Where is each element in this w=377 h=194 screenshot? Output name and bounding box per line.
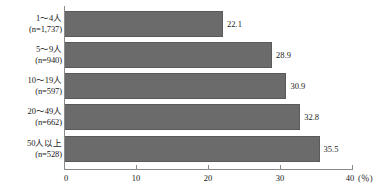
bar [64, 42, 272, 68]
bar-value-label: 32.8 [304, 113, 319, 122]
bar-value-label: 35.5 [324, 145, 339, 154]
category-name: 50人以上 [2, 138, 62, 149]
category-label-2: 10～19人 (n=597) [2, 75, 62, 96]
category-sample-size: (n=528) [2, 149, 62, 160]
x-axis-tick-label: 10 [132, 173, 141, 183]
plot-area: 22.1 28.9 30.9 32.8 35.5 [64, 0, 352, 169]
category-label-1: 5～9人 (n=940) [2, 44, 62, 65]
category-sample-size: (n=1,737) [2, 24, 62, 35]
category-name: 1～4人 [2, 13, 62, 24]
bar [64, 136, 320, 162]
x-axis-line [64, 169, 353, 170]
bar-value-label: 22.1 [227, 20, 242, 29]
category-label-0: 1～4人 (n=1,737) [2, 13, 62, 34]
x-axis-tick-label: 40 [346, 173, 355, 183]
category-name: 20～49人 [2, 106, 62, 117]
category-sample-size: (n=662) [2, 117, 62, 128]
x-axis-tick [352, 165, 353, 169]
bar-value-label: 28.9 [276, 51, 291, 60]
x-axis-tick [136, 165, 137, 169]
bar [64, 104, 300, 130]
x-axis-tick-label: 20 [204, 173, 213, 183]
bar-chart: 1～4人 (n=1,737) 5～9人 (n=940) 10～19人 (n=59… [0, 0, 377, 194]
x-axis-tick-label: 30 [276, 173, 285, 183]
x-axis-tick [64, 165, 65, 169]
category-label-3: 20～49人 (n=662) [2, 106, 62, 127]
y-axis-line [64, 6, 65, 169]
x-axis-unit-label: (％) [358, 173, 373, 183]
x-axis-tick [208, 165, 209, 169]
category-name: 10～19人 [2, 75, 62, 86]
x-axis-tick [280, 165, 281, 169]
category-sample-size: (n=597) [2, 86, 62, 97]
bar [64, 11, 223, 37]
x-axis-tick-label: 0 [64, 173, 68, 183]
bar-value-label: 30.9 [290, 82, 305, 91]
category-name: 5～9人 [2, 44, 62, 55]
bar [64, 73, 286, 99]
category-label-4: 50人以上 (n=528) [2, 138, 62, 159]
category-sample-size: (n=940) [2, 55, 62, 66]
